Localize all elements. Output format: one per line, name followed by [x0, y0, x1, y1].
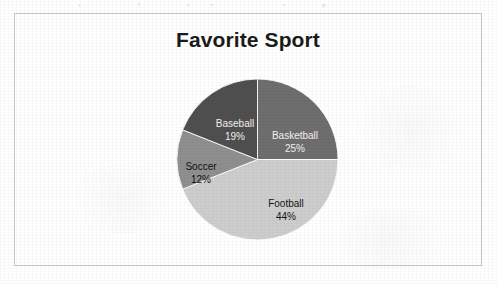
scan-smudge	[63, 164, 183, 234]
scan-smudge	[345, 84, 475, 174]
pie-chart: Basketball 25% Football 44% Soccer 12% B…	[170, 72, 345, 247]
pie-chart-svg	[170, 72, 345, 247]
scan-artifact-text-line	[40, 2, 370, 8]
chart-frame: Favorite Sport Basketball 25% Football 4…	[14, 13, 482, 266]
pie-slice-basketball[interactable]	[258, 79, 339, 160]
chart-title: Favorite Sport	[15, 28, 481, 52]
